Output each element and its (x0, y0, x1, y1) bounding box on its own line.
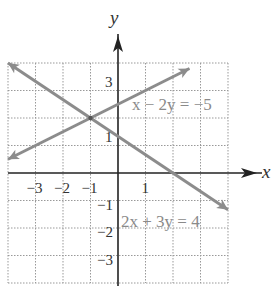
y-tick-label: −3 (97, 252, 113, 268)
y-tick-label: −2 (97, 224, 113, 240)
y-tick-label: 1 (105, 129, 113, 145)
x-axis-label: x (261, 161, 271, 182)
y-tick-label: −1 (97, 197, 113, 213)
equation-label-2: 2x + 3y = 4 (121, 212, 200, 231)
x-tick-label: −3 (27, 180, 43, 196)
y-tick-label: 3 (105, 74, 113, 90)
axes (8, 34, 262, 286)
x-tick-label: 1 (142, 180, 150, 196)
tick-labels: −3−2−1131−1−2−3 (27, 74, 150, 268)
y-axis-label: y (108, 7, 119, 28)
x-tick-label: −2 (54, 180, 70, 196)
equation-label-1: x − 2y = −5 (132, 95, 212, 114)
x-tick-label: −1 (82, 180, 98, 196)
coordinate-plane: −3−2−1131−1−2−3 x − 2y = −5 2x + 3y = 4 … (0, 0, 279, 286)
